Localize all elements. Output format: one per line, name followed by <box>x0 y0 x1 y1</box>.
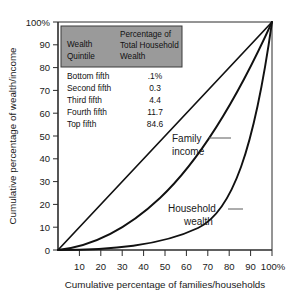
annotation-household-wealth-line1: Household <box>168 203 216 214</box>
x-tick-label-70: 70 <box>203 261 214 272</box>
y-tick-label-10: 10 <box>39 222 50 233</box>
y-tick-label-90: 90 <box>39 39 50 50</box>
table-header-col2-line1: Percentage of <box>120 30 172 39</box>
table-cell-percentage: 11.7 <box>147 107 163 117</box>
y-axis-title: Cumulative percentage of wealth/income <box>7 47 18 225</box>
y-tick-label-50: 50 <box>39 131 50 142</box>
table-header-col2-line3: Wealth <box>120 52 146 61</box>
table-cell-quintile: Second fifth <box>67 83 112 93</box>
table-header-col2-line2: Total Household <box>120 41 179 50</box>
x-tick-label-40: 40 <box>138 261 149 272</box>
x-tick-label-80: 80 <box>224 261 235 272</box>
annotation-family-income-line1: Family <box>172 133 201 144</box>
x-tick-label-100: 100% <box>261 261 286 272</box>
y-tick-label-100: 100% <box>26 17 51 28</box>
x-tick-label-20: 20 <box>96 261 107 272</box>
table-cell-percentage: 4.4 <box>149 95 161 105</box>
annotation-household-wealth-line2: wealth <box>183 216 213 227</box>
y-tick-label-80: 80 <box>39 62 50 73</box>
y-tick-label-60: 60 <box>39 108 50 119</box>
y-tick-label-70: 70 <box>39 85 50 96</box>
table-header-col1-line1: Wealth <box>67 40 93 49</box>
x-tick-label-50: 50 <box>160 261 171 272</box>
y-tick-label-0: 0 <box>45 245 50 256</box>
table-cell-quintile: Top fifth <box>67 119 97 129</box>
x-axis-title: Cumulative percentage of families/househ… <box>65 279 266 290</box>
table-header-col1-line2: Quintile <box>67 52 95 61</box>
table-cell-quintile: Third fifth <box>67 95 102 105</box>
x-tick-label-90: 90 <box>245 261 256 272</box>
x-tick-label-60: 60 <box>181 261 192 272</box>
table-cell-percentage: 0.3 <box>149 83 161 93</box>
x-tick-label-10: 10 <box>74 261 85 272</box>
y-tick-label-30: 30 <box>39 176 50 187</box>
x-tick-label-30: 30 <box>117 261 128 272</box>
y-tick-label-40: 40 <box>39 153 50 164</box>
table-cell-quintile: Fourth fifth <box>67 107 107 117</box>
y-tick-label-20: 20 <box>39 199 50 210</box>
table-cell-quintile: Bottom fifth <box>67 71 110 81</box>
table-cell-percentage: 84.6 <box>147 119 164 129</box>
annotation-family-income-line2: income <box>172 146 205 157</box>
table-cell-percentage: .1% <box>148 71 163 81</box>
lorenz-curve-figure: 100% 90 80 70 60 50 40 30 20 10 0 Cumula… <box>0 0 302 298</box>
